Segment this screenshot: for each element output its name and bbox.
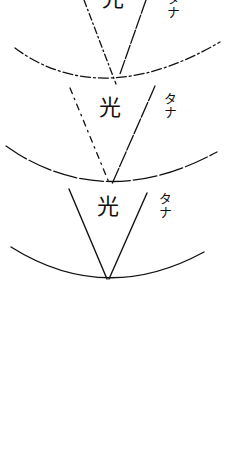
light-cone-diagram (0, 0, 226, 457)
cone-label-top: 光 (102, 0, 124, 10)
top-section (15, 0, 220, 84)
side-label-top: タナ (164, 0, 182, 20)
top-cone-left-edge (84, 0, 116, 84)
top-arc (15, 42, 220, 78)
top-cone-right-edge (120, 0, 146, 74)
bottom-arc (11, 247, 204, 278)
side-label-bottom: タナ (156, 192, 174, 220)
middle-arc (6, 146, 217, 182)
side-label-middle: タナ (161, 92, 179, 120)
cone-label-bottom: 光 (97, 196, 119, 218)
cone-label-middle: 光 (99, 97, 121, 119)
